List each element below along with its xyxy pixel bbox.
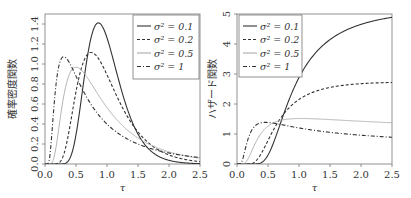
y-tick-label: 4 [221, 41, 232, 47]
y-tick-label: 0.8 [29, 76, 40, 92]
y-tick-label: 0.0 [29, 156, 40, 172]
y-tick-label: 1.2 [29, 36, 40, 52]
y-tick-label: 0 [221, 161, 232, 167]
y-axis-label: 確率密度関数 [6, 59, 18, 119]
x-tick-label: 0.5 [68, 169, 84, 180]
x-tick-label: 1.5 [130, 169, 146, 180]
x-axis-label: τ [120, 182, 126, 193]
x-axis-label: τ [312, 182, 318, 193]
legend-entry: σ² = 0.2 [154, 34, 193, 45]
x-tick-label: 1.0 [291, 169, 307, 180]
legend-entry: σ² = 0.1 [154, 21, 193, 32]
y-tick-label: 0.6 [29, 96, 40, 112]
y-tick-label: 2 [221, 101, 232, 107]
x-tick-label: 0.0 [229, 169, 245, 180]
y-tick-label: 1.4 [29, 16, 40, 32]
x-tick-label: 1.0 [99, 169, 115, 180]
hazard-chart: 0.00.51.01.52.02.5τ012345ハザード関数σ² = 0.1σ… [206, 11, 400, 193]
y-axis-label: ハザード関数 [206, 59, 218, 119]
series-line [237, 119, 392, 164]
y-tick-label: 3 [221, 71, 232, 77]
chart-figure: 0.00.51.01.52.02.5τ0.00.20.40.60.81.01.2… [0, 0, 411, 198]
x-tick-label: 2.0 [353, 169, 369, 180]
series-line [237, 122, 392, 164]
y-tick-label: 0.2 [29, 136, 40, 152]
density-chart: 0.00.51.01.52.02.5τ0.00.20.40.60.81.01.2… [6, 14, 208, 193]
y-tick-label: 1.0 [29, 56, 40, 72]
series-line [237, 82, 392, 164]
x-tick-label: 2.5 [192, 169, 208, 180]
x-tick-label: 1.5 [322, 169, 338, 180]
y-tick-label: 5 [221, 11, 232, 17]
x-tick-label: 2.5 [384, 169, 400, 180]
legend: σ² = 0.1σ² = 0.2σ² = 0.5σ² = 1 [133, 15, 199, 79]
legend-entry: σ² = 0.5 [260, 48, 299, 59]
y-tick-label: 0.4 [29, 116, 40, 132]
legend: σ² = 0.1σ² = 0.2σ² = 0.5σ² = 1 [239, 15, 302, 77]
series-line [45, 67, 200, 164]
legend-entry: σ² = 0.5 [154, 48, 193, 59]
legend-entry: σ² = 1 [154, 61, 184, 72]
legend-entry: σ² = 0.1 [260, 21, 299, 32]
legend-entry: σ² = 1 [260, 61, 290, 72]
x-tick-label: 0.5 [260, 169, 276, 180]
y-tick-label: 1 [221, 131, 232, 137]
x-tick-label: 2.0 [161, 169, 177, 180]
legend-entry: σ² = 0.2 [260, 34, 299, 45]
